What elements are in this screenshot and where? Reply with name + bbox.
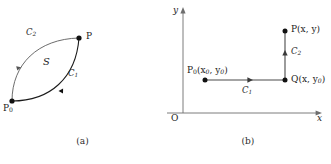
point-p-marker	[76, 35, 81, 40]
point-q-marker	[283, 78, 288, 83]
origin-label: O	[171, 114, 178, 123]
y-axis-label: y	[173, 6, 178, 15]
point-p0-marker	[203, 78, 208, 83]
point-p-marker	[283, 29, 288, 34]
segment-label-c2-sub: 2	[298, 50, 302, 56]
caption-b: (b)	[165, 136, 331, 146]
figure-root: P0 P S C2 C1 (a) y x O	[0, 0, 331, 164]
curve-c1-arrowhead	[59, 89, 64, 94]
curve-label-c1-sub: 1	[75, 72, 79, 78]
point-q-label: Q(x, y0)	[291, 75, 325, 84]
curve-label-c1: C1	[68, 69, 78, 79]
point-p0-label-sub: 0	[9, 106, 13, 113]
region-label-s: S	[43, 57, 50, 67]
x-axis-label: x	[317, 114, 322, 123]
segment-label-c2: C2	[291, 47, 301, 57]
point-p-label: P	[86, 32, 92, 41]
point-p0-marker	[9, 98, 14, 103]
segment-label-c1: C1	[242, 86, 252, 96]
segment-label-c1-sub: 1	[249, 89, 253, 95]
curve-label-c2-sub: 2	[33, 31, 37, 37]
point-p0-label: P0(x0, y0)	[187, 66, 228, 75]
point-p-label: P(x, y)	[291, 25, 320, 34]
segment-c2-arrowhead	[282, 50, 287, 56]
curve-label-c2: C2	[26, 28, 36, 38]
panel-b: y x O P0(x0, y0) Q(x, y0) P(x, y) C1 C2 …	[165, 0, 331, 164]
panel-a: P0 P S C2 C1 (a)	[0, 0, 165, 164]
y-axis-arrowhead	[180, 7, 185, 13]
point-p0-label: P0	[3, 104, 13, 113]
caption-a: (a)	[0, 136, 165, 146]
segment-c1-arrowhead	[247, 77, 253, 82]
